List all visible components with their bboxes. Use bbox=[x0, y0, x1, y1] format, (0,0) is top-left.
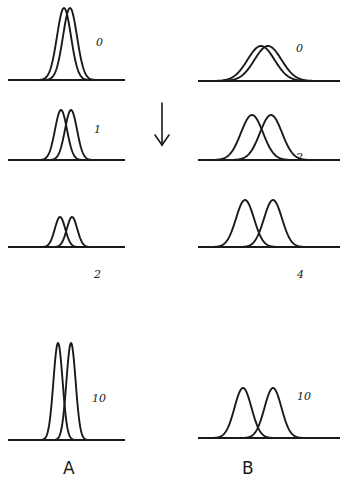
chromatogram-row: 4 bbox=[198, 200, 340, 281]
peak-2 bbox=[52, 343, 90, 440]
chromatogram-row: 2 bbox=[198, 115, 340, 164]
row-value-label: 1 bbox=[94, 123, 101, 136]
peak-1 bbox=[207, 200, 283, 247]
chromatogram-row: 0 bbox=[198, 42, 340, 81]
chromatogram-row: 1 bbox=[8, 110, 125, 160]
chromatogram-row: 10 bbox=[198, 388, 340, 438]
peak-1 bbox=[39, 343, 77, 440]
row-value-label: 2 bbox=[295, 151, 303, 164]
row-value-label: 4 bbox=[296, 268, 304, 281]
row-value-label: 10 bbox=[297, 390, 311, 403]
panels: 01210A02410B bbox=[8, 8, 340, 478]
down-arrow-icon bbox=[155, 103, 169, 145]
panel-b: 02410B bbox=[198, 42, 340, 478]
panel-label: B bbox=[242, 458, 254, 478]
row-value-label: 0 bbox=[296, 42, 303, 55]
chromatogram-row: 0 bbox=[8, 8, 125, 80]
row-value-label: 10 bbox=[92, 392, 106, 405]
resolution-diagram: 01210A02410B bbox=[0, 0, 350, 487]
chromatogram-row: 2 bbox=[8, 217, 125, 281]
row-value-label: 0 bbox=[96, 36, 103, 49]
peak-2 bbox=[235, 200, 311, 247]
panel-a: 01210A bbox=[8, 8, 125, 478]
row-value-label: 2 bbox=[93, 268, 101, 281]
panel-label: A bbox=[63, 458, 75, 478]
chromatogram-row: 10 bbox=[8, 343, 125, 440]
